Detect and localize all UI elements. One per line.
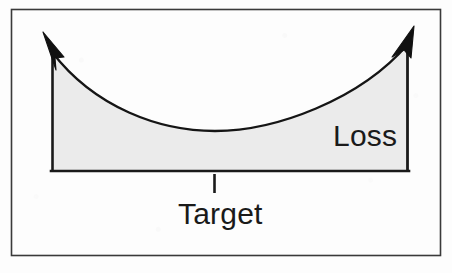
figure-canvas: Loss Target <box>0 0 452 273</box>
loss-label: Loss <box>333 121 397 151</box>
target-label: Target <box>178 199 263 229</box>
